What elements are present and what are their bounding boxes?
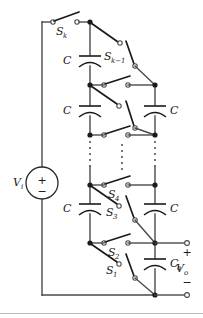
switch-s3-blade bbox=[126, 196, 134, 218]
switch-row2-horizontal[interactable] bbox=[102, 76, 130, 87]
node-right-row4 bbox=[152, 182, 157, 187]
switch-sk[interactable] bbox=[51, 12, 79, 24]
switch-row2-diagonal-blade bbox=[91, 86, 117, 104]
output-plus-sign: + bbox=[182, 246, 191, 259]
switch-row2-diagonal[interactable] bbox=[91, 86, 121, 108]
switch-s1-label-subscript: 1 bbox=[113, 271, 117, 279]
node-left-row3 bbox=[87, 132, 92, 137]
switch-s4[interactable] bbox=[102, 176, 130, 187]
circuit-schematic: + − V i S k C bbox=[0, 0, 203, 318]
output-voltage-label-subscript: o bbox=[184, 269, 188, 277]
switch-sk-minus-1-upper[interactable] bbox=[126, 41, 137, 68]
switch-s1-blade bbox=[126, 254, 134, 276]
capacitor-c-left-lower-label: C bbox=[63, 202, 72, 215]
switch-row5-diagonal-terminal bbox=[117, 262, 121, 266]
switch-row4-diagonal-terminal bbox=[117, 204, 121, 208]
switch-row3-blade bbox=[105, 126, 130, 134]
switch-s3-label-subscript: 3 bbox=[113, 213, 118, 221]
switch-row2-diagonal-terminal bbox=[117, 104, 121, 108]
switch-sk-label-subscript: k bbox=[63, 32, 67, 40]
node-left-row2 bbox=[87, 82, 92, 87]
wire-s1-to-bottom-rail bbox=[135, 278, 155, 295]
switch-row3-steep-blade bbox=[126, 101, 134, 126]
switch-row3-steep[interactable] bbox=[126, 101, 137, 130]
node-left-row5 bbox=[87, 240, 92, 245]
node-right-row2 bbox=[152, 82, 157, 87]
node-left-row1 bbox=[87, 19, 92, 24]
switch-sk-minus-1-blade bbox=[91, 23, 118, 42]
switch-s2-blade bbox=[105, 234, 130, 242]
node-right-row3 bbox=[152, 132, 157, 137]
output-terminal-positive[interactable] bbox=[185, 241, 190, 246]
switch-row2-blade bbox=[105, 76, 130, 84]
switch-s3[interactable] bbox=[126, 196, 137, 222]
capacitor-c-right-upper-label: C bbox=[170, 104, 179, 117]
switch-sk-minus-1-terminal bbox=[118, 41, 122, 45]
switch-s1[interactable] bbox=[126, 254, 137, 280]
output-minus-sign: − bbox=[182, 276, 191, 289]
input-voltage-label-subscript: i bbox=[21, 183, 23, 191]
switch-s2[interactable] bbox=[102, 234, 130, 245]
switch-row3-horizontal[interactable] bbox=[102, 126, 130, 137]
switch-sk-blade bbox=[54, 12, 79, 21]
switch-s4-blade bbox=[105, 176, 130, 184]
wire-row3-steep-to-right-node bbox=[135, 128, 155, 135]
wire-s3-to-right-node-row5 bbox=[135, 220, 155, 243]
source-minus-sign: − bbox=[37, 185, 46, 198]
node-left-row4 bbox=[87, 182, 92, 187]
output-terminal-negative[interactable] bbox=[185, 293, 190, 298]
switch-sk-minus-1[interactable] bbox=[91, 23, 122, 45]
circuit-figure: + − V i S k C bbox=[0, 0, 203, 318]
wire-sk1-upper-to-right-node bbox=[135, 66, 155, 85]
switch-sk-minus-1-upper-blade bbox=[126, 41, 134, 64]
capacitor-c-left-mid-label: C bbox=[63, 104, 72, 117]
capacitor-c-right-lower-label: C bbox=[170, 202, 179, 215]
capacitor-c-left-top-label: C bbox=[63, 54, 72, 67]
switch-sk-minus-1-label-subscript: k−1 bbox=[111, 57, 126, 65]
